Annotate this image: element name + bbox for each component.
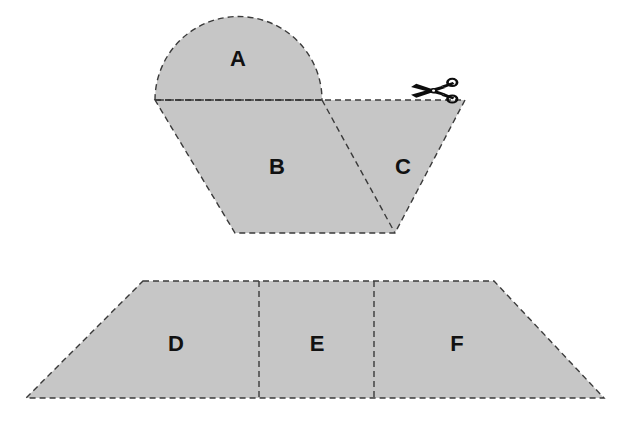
top-figure-group: A B C [155, 17, 465, 233]
region-label-e: E [310, 331, 325, 356]
region-label-a: A [230, 46, 246, 71]
region-label-b: B [269, 154, 285, 179]
region-label-f: F [450, 331, 463, 356]
region-label-d: D [168, 331, 184, 356]
scissors-icon [411, 79, 457, 103]
bottom-figure-group: D E F [26, 281, 604, 398]
figure-root: A B C [0, 0, 628, 424]
source-trapezoid-shape [155, 100, 465, 233]
region-label-c: C [395, 154, 411, 179]
figure-canvas: A B C [0, 0, 628, 424]
